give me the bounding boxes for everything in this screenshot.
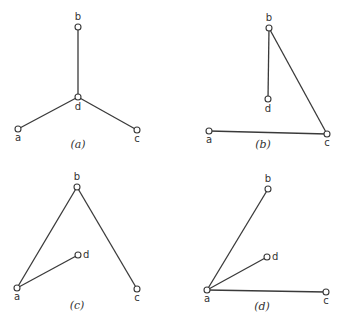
edge-b-c [269,28,327,134]
node-d [75,252,81,258]
node-label-d: d [75,101,81,112]
node-label-d: d [83,249,89,260]
edge-a-b [207,189,268,290]
panel-c: bdac(c) [14,171,140,312]
edge-b-c [77,187,137,289]
node-label-a: a [206,134,212,145]
node-b [75,24,81,30]
node-label-b: b [266,12,272,23]
node-d [265,96,271,102]
node-label-b: b [75,11,81,22]
node-label-a: a [15,132,21,143]
edge-a-c [207,290,326,292]
panel-a: bdac(a) [15,11,140,151]
node-label-a: a [14,291,20,302]
node-label-b: b [265,173,271,184]
panel-caption: (a) [70,138,85,151]
panel-d: bdac(d) [204,173,329,313]
edge-a-b [17,187,77,288]
node-b [266,25,272,31]
node-d [264,254,270,260]
edge-b-d [268,28,269,99]
graph-figure: bdac(a)bdac(b)bdac(c)bdac(d) [0,0,343,325]
node-label-d: d [272,251,278,262]
node-b [74,184,80,190]
node-label-c: c [134,292,140,303]
node-label-b: b [74,171,80,182]
edge-d-a [18,97,78,129]
node-label-d: d [265,103,271,114]
edge-a-d [207,257,267,290]
node-d [75,94,81,100]
edge-a-c [209,131,327,134]
edge-d-c [78,97,137,130]
node-b [265,186,271,192]
node-label-a: a [204,293,210,304]
node-label-c: c [323,295,329,306]
panel-caption: (d) [254,300,270,313]
node-label-c: c [134,133,140,144]
panel-b: bdac(b) [206,12,330,151]
panel-caption: (c) [70,299,85,312]
node-label-c: c [324,137,330,148]
panel-caption: (b) [255,138,271,151]
